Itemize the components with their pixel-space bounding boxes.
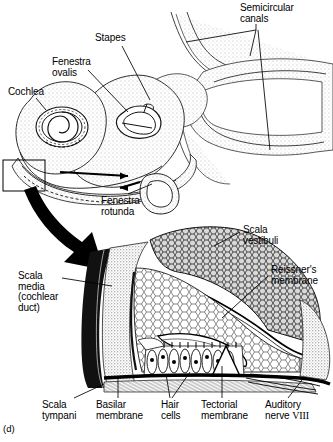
label-stapes: Stapes bbox=[95, 33, 126, 44]
label-tectorial-membrane: Tectorial membrane bbox=[201, 400, 248, 421]
label-scala-vestibuli: Scala vestibuli bbox=[243, 225, 278, 246]
auditory-nerve-word: nerve bbox=[265, 410, 292, 421]
ear-anatomy-figure: Semicircular canals Stapes Fenestra oval… bbox=[0, 0, 333, 442]
label-scala-media: Scala media (cochlear duct) bbox=[18, 271, 58, 313]
label-auditory-nerve: Auditory bbox=[265, 400, 301, 411]
panel-identifier: (d) bbox=[3, 423, 15, 434]
label-hair-cells: Hair cells bbox=[161, 400, 181, 421]
label-semicircular-canals: Semicircular canals bbox=[240, 3, 294, 24]
scala-tympani-chamber bbox=[104, 380, 316, 392]
label-reissners-membrane: Reissner's membrane bbox=[271, 265, 318, 286]
lower-cochlear-cross-section bbox=[81, 227, 330, 394]
upper-inner-ear-drawing bbox=[3, 12, 333, 270]
label-scala-tympani: Scala tympani bbox=[42, 400, 76, 421]
label-auditory-nerve-line2: nerve VIII bbox=[265, 411, 309, 422]
anatomy-illustration bbox=[0, 0, 333, 442]
label-cochlea: Cochlea bbox=[8, 87, 44, 98]
label-basilar-membrane: Basilar membrane bbox=[96, 400, 143, 421]
label-fenestra-rotunda: Fenestra rotunda bbox=[101, 196, 140, 217]
label-fenestra-ovalis: Fenestra ovalis bbox=[52, 57, 91, 78]
cranial-nerve-numeral: VIII bbox=[292, 410, 309, 421]
fenestra-rotunda-shape bbox=[140, 174, 179, 214]
